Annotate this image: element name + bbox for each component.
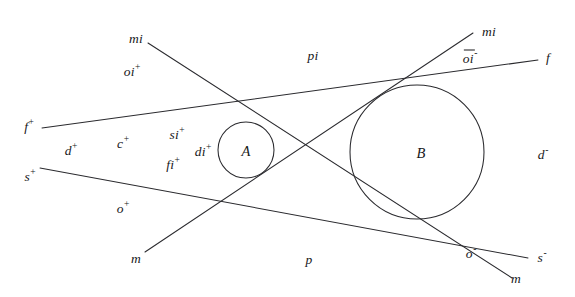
circle-label-B: B: [416, 146, 425, 161]
region-label-d-plus: d+: [65, 143, 78, 158]
overline-bar: [464, 50, 475, 51]
label-text: pi: [308, 48, 319, 63]
label-sign-minus: -: [545, 145, 548, 155]
region-label-s-minus: s-: [538, 250, 547, 265]
label-sign-plus: +: [124, 134, 130, 144]
label-sign-minus: -: [474, 48, 477, 58]
label-text: B: [416, 145, 425, 161]
diagram-svg: [0, 0, 575, 297]
label-text: o: [117, 201, 124, 216]
region-label-pi: pi: [308, 49, 319, 63]
region-label-d-minus: d-: [538, 147, 548, 162]
region-label-f-plus: f+: [24, 119, 34, 134]
label-text: si: [170, 127, 179, 142]
label-sign-plus: +: [135, 62, 141, 72]
label-sign-plus: +: [179, 125, 185, 135]
label-sign-plus: +: [124, 199, 130, 209]
label-text: mi: [482, 24, 496, 39]
label-sign-plus: +: [30, 167, 36, 177]
region-label-c-plus: c+: [117, 136, 129, 151]
label-text: s: [24, 169, 29, 184]
diagram-line-mi1: [148, 43, 512, 278]
region-label-o-plus: o+: [117, 201, 130, 216]
region-label-m-bottom-right: m: [511, 272, 521, 286]
region-label-oi-plus: oi+: [124, 64, 140, 79]
label-text: d: [65, 143, 72, 158]
region-label-p: p: [306, 253, 313, 267]
label-text: f: [546, 50, 550, 65]
region-label-m-bottom-left: m: [131, 252, 141, 266]
label-text: d: [538, 147, 545, 162]
region-label-mi-top-left: mi: [129, 32, 143, 46]
label-text: oi: [463, 50, 474, 65]
label-text: fi: [166, 157, 174, 172]
label-sign-minus: -: [543, 248, 546, 258]
diagram-line-s: [40, 168, 528, 258]
label-text: di: [195, 144, 206, 159]
diagram-canvas: mioi+pimioi-ff+d+c+si+di+fi+s+d-o+mpo-s-…: [0, 0, 575, 297]
label-text: A: [241, 143, 250, 159]
label-text: o: [466, 246, 473, 261]
label-sign-plus: +: [72, 141, 78, 151]
region-label-fi-plus: fi+: [166, 157, 179, 172]
region-label-oi-minus: oi-: [463, 50, 477, 65]
label-text: s: [538, 250, 543, 265]
label-text: p: [306, 252, 313, 267]
label-sign-plus: +: [29, 117, 35, 127]
label-text: oi: [124, 64, 135, 79]
region-label-o-minus: o-: [466, 246, 476, 261]
region-label-f-right: f: [546, 51, 550, 65]
label-sign-plus: +: [206, 142, 212, 152]
label-text: m: [131, 251, 141, 266]
diagram-line-f: [42, 60, 538, 128]
region-label-s-plus: s+: [24, 169, 35, 184]
circle-label-A: A: [241, 144, 250, 159]
label-text: mi: [129, 31, 143, 46]
label-sign-plus: +: [175, 155, 181, 165]
label-text: c: [117, 136, 123, 151]
region-label-mi-top-right: mi: [482, 25, 496, 39]
region-label-di-plus: di+: [195, 144, 211, 159]
label-text: m: [511, 271, 521, 286]
region-label-si-plus: si+: [170, 127, 185, 142]
label-sign-minus: -: [473, 244, 476, 254]
